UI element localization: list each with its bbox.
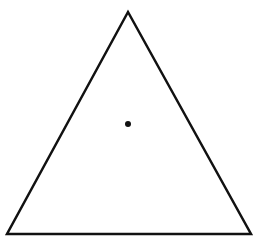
triangle-diagram [0, 0, 259, 243]
center-dot [125, 121, 131, 127]
